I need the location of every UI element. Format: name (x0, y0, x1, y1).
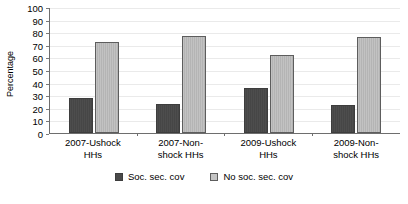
x-axis-separator-tick (137, 133, 138, 136)
bars-layer (50, 8, 400, 133)
x-axis-labels: 2007-Ushock HHs2007-Non- shock HHs2009-U… (49, 137, 400, 160)
legend-label: No soc. sec. cov (223, 172, 293, 182)
legend-swatch-icon (115, 173, 123, 181)
y-axis-tick-mark (46, 109, 49, 110)
x-axis-label: 2007-Ushock HHs (49, 137, 137, 160)
bar-0[interactable] (331, 105, 355, 133)
plot-wrapper: 1009080706050403020100 (20, 8, 400, 134)
y-axis-tick-label: 90 (32, 16, 43, 25)
y-axis-tick-label: 80 (32, 29, 43, 38)
y-axis-tick-mark (46, 96, 49, 97)
bar-1[interactable] (270, 55, 294, 133)
bar-group (138, 8, 226, 133)
bar-group (313, 8, 401, 133)
legend-label: Soc. sec. cov (128, 172, 185, 182)
y-axis-tick-label: 70 (32, 41, 43, 50)
x-axis-separator-tick (312, 133, 313, 136)
y-axis-tick-labels: 1009080706050403020100 (20, 8, 46, 134)
bar-0[interactable] (244, 88, 268, 133)
y-axis-tick-mark (46, 84, 49, 85)
x-axis-label: 2009-Ushock HHs (225, 137, 313, 160)
y-axis-tick-mark (46, 58, 49, 59)
legend-swatch-icon (210, 173, 218, 181)
y-axis-tick-mark (46, 134, 49, 135)
y-axis-title: Percentage (0, 0, 20, 148)
y-axis-tick-label: 40 (32, 79, 43, 88)
y-axis-tick-label: 10 (32, 117, 43, 126)
y-axis-tick-mark (46, 121, 49, 122)
legend-item[interactable]: Soc. sec. cov (115, 172, 185, 182)
plot-area (49, 8, 400, 134)
y-axis-tick-mark (46, 8, 49, 9)
bar-0[interactable] (156, 104, 180, 133)
y-axis-tick-label: 20 (32, 104, 43, 113)
bar-group (50, 8, 138, 133)
bar-1[interactable] (357, 37, 381, 133)
y-axis-title-text: Percentage (5, 51, 15, 97)
y-axis-tick-label: 50 (32, 67, 43, 76)
y-axis-tick-mark (46, 46, 49, 47)
x-axis-label: 2009-Non- shock HHs (312, 137, 400, 160)
bar-0[interactable] (69, 98, 93, 133)
y-axis-tick-label: 30 (32, 92, 43, 101)
y-axis-tick-label: 60 (32, 54, 43, 63)
y-axis-tick-label: 0 (38, 130, 43, 139)
y-axis-tick-label: 100 (27, 4, 43, 13)
legend-item[interactable]: No soc. sec. cov (210, 172, 293, 182)
bar-group (225, 8, 313, 133)
chart-legend: Soc. sec. covNo soc. sec. cov (0, 172, 408, 182)
x-axis-separator-tick (224, 133, 225, 136)
y-axis-tick-mark (46, 71, 49, 72)
y-axis-tick-mark (46, 33, 49, 34)
x-axis-label: 2007-Non- shock HHs (137, 137, 225, 160)
bar-1[interactable] (182, 36, 206, 133)
bar-chart: Percentage 1009080706050403020100 2007-U… (0, 0, 408, 204)
y-axis-tick-mark (46, 21, 49, 22)
bar-1[interactable] (95, 42, 119, 133)
